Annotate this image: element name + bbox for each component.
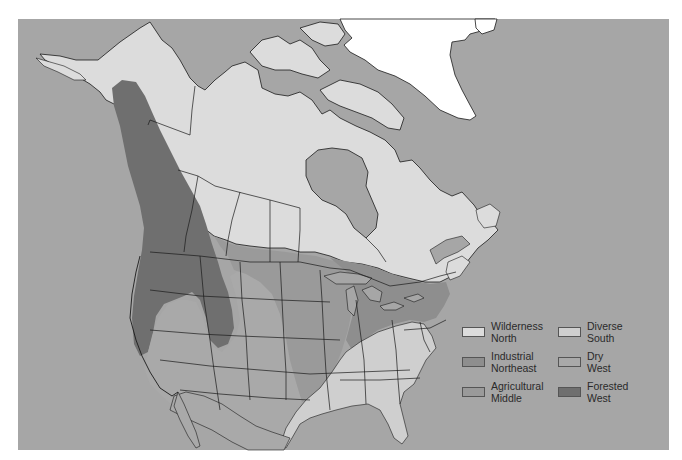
- legend-item-agricultural-middle: Agricultural Middle: [462, 380, 551, 404]
- legend-label: Diverse South: [587, 320, 647, 344]
- legend-label-line1: Agricultural: [491, 380, 551, 392]
- legend-label: Agricultural Middle: [491, 380, 551, 404]
- legend-label-line2: South: [587, 332, 647, 344]
- legend-item-wilderness-north: Wilderness North: [462, 320, 551, 344]
- legend-label-line2: West: [587, 392, 647, 404]
- swatch-agricultural-middle: [462, 387, 485, 397]
- legend-label-line2: Northeast: [491, 362, 551, 374]
- swatch-forested-west: [558, 387, 581, 397]
- swatch-industrial-northeast: [462, 357, 485, 367]
- swatch-dry-west: [558, 357, 581, 367]
- legend-label: Forested West: [587, 380, 647, 404]
- legend-label-line2: North: [491, 332, 551, 344]
- legend-label: Dry West: [587, 350, 647, 374]
- legend-label-line1: Industrial: [491, 350, 551, 362]
- legend-label-line2: Middle: [491, 392, 551, 404]
- swatch-diverse-south: [558, 327, 581, 337]
- legend-item-industrial-northeast: Industrial Northeast: [462, 350, 551, 374]
- legend-item-diverse-south: Diverse South: [558, 320, 647, 344]
- legend-label-line2: West: [587, 362, 647, 374]
- legend-label: Industrial Northeast: [491, 350, 551, 374]
- legend-item-dry-west: Dry West: [558, 350, 647, 374]
- legend-label-line1: Diverse: [587, 320, 647, 332]
- swatch-wilderness-north: [462, 327, 485, 337]
- legend-label-line1: Dry: [587, 350, 647, 362]
- legend-label: Wilderness North: [491, 320, 551, 344]
- legend-label-line1: Wilderness: [491, 320, 551, 332]
- legend-label-line1: Forested: [587, 380, 647, 392]
- legend-item-forested-west: Forested West: [558, 380, 647, 404]
